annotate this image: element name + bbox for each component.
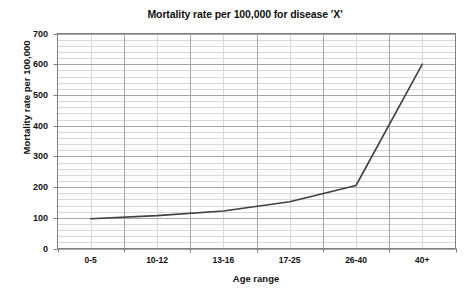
y-tick-label: 100	[14, 213, 48, 223]
x-tick-label: 13-16	[193, 255, 253, 265]
y-tick-label: 500	[14, 90, 48, 100]
y-tick-label: 600	[14, 59, 48, 69]
y-tick-label: 700	[14, 29, 48, 39]
x-tick-label: 40+	[392, 255, 452, 265]
plot-frame	[58, 34, 456, 249]
minor-gridlines-horizontal	[58, 41, 456, 243]
y-tick-label: 300	[14, 151, 48, 161]
x-tick-label: 0-5	[61, 255, 121, 265]
data-series-line	[91, 64, 423, 219]
y-tick-label: 0	[14, 244, 48, 254]
x-tick-label: 17-25	[260, 255, 320, 265]
x-tick-label: 10-12	[127, 255, 187, 265]
x-tick-label: 26-40	[326, 255, 386, 265]
plot-area	[0, 0, 470, 298]
y-tick-label: 400	[14, 121, 48, 131]
y-axis-ticks	[54, 35, 58, 250]
chart-container: Mortality rate per 100,000 for disease '…	[0, 0, 470, 298]
y-tick-label: 200	[14, 182, 48, 192]
x-axis-title: Age range	[57, 273, 455, 284]
